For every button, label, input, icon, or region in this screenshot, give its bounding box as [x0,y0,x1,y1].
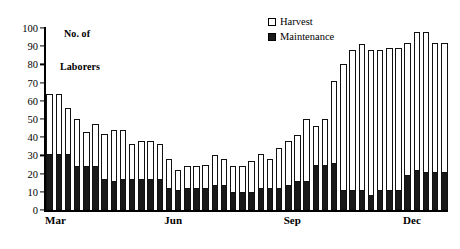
bar-segment-harvest [386,48,392,190]
y-tick-mark-10 [40,191,44,192]
bar-segment-maintenance [147,179,153,210]
x-axis-label-jun: Jun [164,214,182,226]
bar-segment-maintenance [313,165,319,211]
bar-44 [441,43,447,210]
bar-6 [92,124,98,210]
bar-2 [56,94,62,210]
bar-segment-harvest [65,108,71,154]
bar-17 [193,166,199,210]
bar-segment-maintenance [65,154,71,210]
bar-segment-harvest [147,141,153,179]
bar-1 [46,94,52,210]
bar-segment-maintenance [349,190,355,210]
bar-segment-harvest [92,124,98,166]
bar-segment-maintenance [377,190,383,210]
bar-segment-harvest [423,32,429,172]
bar-segment-harvest [230,166,236,191]
bar-segment-maintenance [423,172,429,210]
bar-segment-maintenance [193,188,199,210]
bar-segment-maintenance [111,181,117,210]
bar-segment-maintenance [368,195,374,210]
y-tick-mark-60 [40,100,44,101]
bar-36 [368,50,374,210]
bar-segment-maintenance [129,179,135,210]
bar-13 [157,144,163,210]
bar-segment-maintenance [230,192,236,210]
bar-32 [331,81,337,210]
bar-segment-maintenance [212,185,218,210]
bar-segment-harvest [285,141,291,185]
y-tick-mark-100 [40,27,44,28]
bar-segment-harvest [248,161,254,192]
bar-series-group [45,28,448,210]
bar-segment-harvest [239,166,245,191]
bar-segment-maintenance [395,190,401,210]
bar-segment-harvest [441,43,447,172]
bar-segment-maintenance [294,181,300,210]
bar-12 [147,141,153,210]
bar-segment-maintenance [239,192,245,210]
bar-segment-harvest [414,32,420,170]
bar-4 [74,119,80,210]
bar-29 [303,119,309,210]
y-tick-mark-30 [40,155,44,156]
bar-segment-harvest [322,119,328,165]
bar-segment-maintenance [120,179,126,210]
bar-segment-harvest [258,154,264,189]
bar-segment-maintenance [404,175,410,210]
bar-segment-maintenance [92,166,98,210]
bar-segment-maintenance [202,188,208,210]
bar-segment-harvest [359,44,365,190]
bar-segment-harvest [74,119,80,166]
bar-segment-maintenance [432,172,438,210]
x-axis-line [44,210,448,212]
x-axis-label-sep: Sep [284,214,301,226]
bar-segment-maintenance [83,166,89,210]
bar-segment-harvest [212,155,218,184]
legend-label-harvest: Harvest [280,14,313,29]
bar-segment-harvest [368,50,374,196]
bar-7 [101,134,107,210]
bar-segment-harvest [157,144,163,179]
y-tick-mark-50 [40,118,44,119]
bar-23 [248,161,254,210]
bar-segment-harvest [83,132,89,167]
bar-segment-maintenance [248,192,254,210]
bar-segment-harvest [46,94,52,154]
bar-segment-harvest [120,130,126,179]
bar-22 [239,166,245,210]
bar-segment-maintenance [157,179,163,210]
bar-19 [212,155,218,210]
x-axis-label-mar: Mar [45,214,66,226]
bar-segment-maintenance [74,166,80,210]
bar-segment-harvest [175,170,181,190]
bar-segment-maintenance [184,188,190,210]
bar-segment-harvest [101,134,107,180]
bar-segment-harvest [138,141,144,179]
bar-segment-harvest [56,94,62,154]
bar-segment-harvest [294,135,300,181]
bar-segment-harvest [432,43,438,172]
bar-segment-maintenance [285,185,291,210]
bar-segment-harvest [313,126,319,164]
bar-39 [395,48,401,210]
bar-15 [175,170,181,210]
bar-segment-harvest [377,50,383,190]
bar-segment-harvest [129,144,135,179]
bar-segment-maintenance [56,154,62,210]
chart-container: No. of Laborers Harvest Maintenance 0102… [0,0,460,249]
bar-segment-harvest [395,48,401,190]
bar-segment-harvest [221,159,227,184]
bar-16 [184,166,190,210]
bar-38 [386,48,392,210]
bar-27 [285,141,291,210]
bar-8 [111,130,117,210]
bar-segment-maintenance [221,185,227,210]
y-tick-mark-0 [40,209,44,210]
bar-segment-harvest [303,119,309,181]
bar-segment-harvest [404,43,410,176]
bar-35 [359,44,365,210]
bar-41 [414,32,420,210]
bar-segment-maintenance [303,181,309,210]
bar-segment-harvest [202,165,208,189]
